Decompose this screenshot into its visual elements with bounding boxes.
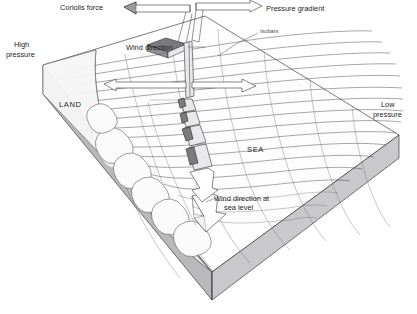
label-sea: SEA — [247, 145, 264, 154]
label-high-pressure-line2: pressure — [6, 50, 35, 59]
pressure-gradient-arrow — [196, 0, 262, 12]
label-high-pressure-line1: High — [14, 40, 29, 49]
label-wind-direction-sea-level-line1: Wind direction at — [214, 194, 269, 203]
label-coriolis-force: Coriolis force — [60, 3, 103, 12]
diagram-canvas: Coriolis force Pressure gradient Isobars… — [0, 0, 417, 314]
label-land: LAND — [59, 100, 82, 109]
weather-diagram: Coriolis force Pressure gradient Isobars… — [0, 0, 417, 314]
label-low-pressure-line2: pressure — [373, 110, 402, 119]
label-wind-direction-sea-level-line2: sea level — [224, 203, 254, 212]
terrain-slab — [43, 16, 399, 300]
label-low-pressure-line1: Low — [381, 100, 395, 109]
label-wind-direction: Wind direction — [126, 43, 173, 52]
label-pressure-gradient: Pressure gradient — [266, 4, 324, 13]
label-isobars: Isobars — [260, 28, 279, 34]
coriolis-force-arrow — [124, 2, 190, 14]
